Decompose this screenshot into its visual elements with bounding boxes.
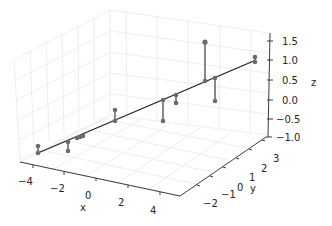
z-axis-label: z — [311, 77, 316, 88]
x-axis-label: x — [80, 202, 86, 213]
x-tick-label: 0 — [85, 190, 91, 201]
z-tick-label: −0.5 — [276, 114, 300, 125]
x-tick-label: −2 — [50, 183, 65, 194]
y-tick-label: −2 — [203, 198, 218, 209]
x-tick-label: 2 — [118, 197, 124, 208]
data-point[interactable] — [113, 119, 118, 124]
x-tick-label: −4 — [18, 176, 33, 187]
y-tick-label: 2 — [261, 163, 267, 174]
grid-lines — [14, 10, 268, 196]
3d-stem-plot: −4 −2 0 2 4 x −2 −1 0 1 2 3 y 1.5 1.0 0.… — [0, 0, 332, 226]
fit-line — [38, 60, 256, 153]
y-tick-label: 0 — [237, 182, 243, 193]
data-point[interactable] — [66, 140, 71, 145]
y-tick-labels: −2 −1 0 1 2 3 — [203, 153, 279, 209]
y-tick-label: 3 — [273, 153, 279, 164]
data-point[interactable] — [66, 149, 71, 154]
z-tick-label: 1.5 — [282, 36, 298, 47]
data-point[interactable] — [213, 76, 218, 81]
data-point[interactable] — [202, 39, 207, 44]
data-point[interactable] — [81, 134, 86, 139]
data-point[interactable] — [203, 79, 208, 84]
x-tick-labels: −4 −2 0 2 4 — [18, 176, 156, 216]
y-tick-label: 1 — [249, 172, 255, 183]
z-tick-label: 1.0 — [282, 55, 298, 66]
y-tick-label: −1 — [221, 189, 236, 200]
data-point[interactable] — [174, 101, 179, 106]
data-point[interactable] — [213, 99, 218, 104]
data-point[interactable] — [161, 98, 166, 103]
z-tick-label: 0.0 — [282, 95, 298, 106]
data-point[interactable] — [161, 119, 166, 124]
y-axis-label: y — [250, 183, 256, 194]
data-point[interactable] — [253, 55, 258, 60]
axes — [20, 33, 273, 196]
z-tick-labels: 1.5 1.0 0.5 0.0 −0.5 −1.0 — [276, 36, 300, 143]
data-point[interactable] — [113, 108, 118, 113]
data-point[interactable] — [253, 60, 258, 65]
z-axis-line — [268, 33, 270, 137]
plot-canvas: −4 −2 0 2 4 x −2 −1 0 1 2 3 y 1.5 1.0 0.… — [0, 0, 332, 226]
data-point[interactable] — [36, 144, 41, 149]
z-tick-label: 0.5 — [282, 75, 298, 86]
data-point[interactable] — [174, 93, 179, 98]
x-tick-label: 4 — [150, 205, 156, 216]
z-tick-label: −1.0 — [276, 132, 300, 143]
data-point[interactable] — [36, 151, 41, 156]
